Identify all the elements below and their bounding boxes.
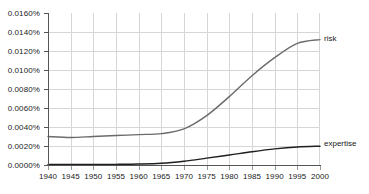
x-tick-label: 1960	[128, 172, 150, 181]
x-axis-tick	[71, 166, 72, 170]
x-tick-label: 1990	[264, 172, 286, 181]
x-axis-tick	[297, 166, 298, 170]
y-tick-label: 0.0160%	[8, 9, 40, 18]
y-tick-label: 0.0020%	[8, 142, 40, 151]
x-axis-tick	[184, 166, 185, 170]
series-label-risk: risk	[324, 34, 336, 43]
x-axis-tick	[48, 166, 49, 170]
x-axis-tick	[252, 166, 253, 170]
x-axis-tick	[161, 166, 162, 170]
y-tick-label: 0.0100%	[8, 66, 40, 75]
y-axis-line	[48, 13, 49, 166]
y-tick-label: 0.0060%	[8, 104, 40, 113]
x-axis-tick	[207, 166, 208, 170]
x-axis-tick	[93, 166, 94, 170]
x-tick-label: 1950	[82, 172, 104, 181]
y-tick-label: 0.0000%	[8, 161, 40, 170]
x-axis-tick	[229, 166, 230, 170]
y-tick-label: 0.0080%	[8, 85, 40, 94]
x-axis-tick	[139, 166, 140, 170]
series-line-risk	[48, 40, 320, 138]
x-tick-label: 1975	[196, 172, 218, 181]
x-tick-label: 1970	[173, 172, 195, 181]
x-axis-tick	[275, 166, 276, 170]
x-tick-label: 1965	[150, 172, 172, 181]
x-axis-tick	[116, 166, 117, 170]
x-tick-label: 2000	[309, 172, 331, 181]
y-tick-label: 0.0140%	[8, 28, 40, 37]
x-tick-label: 1995	[286, 172, 308, 181]
series-line-expertise	[48, 146, 320, 164]
x-tick-label: 1945	[60, 172, 82, 181]
line-chart: 0.0160% 0.0140% 0.0120% 0.0100% 0.0080% …	[0, 0, 369, 194]
y-tick-label: 0.0040%	[8, 123, 40, 132]
x-axis-tick	[320, 166, 321, 170]
x-tick-label: 1985	[241, 172, 263, 181]
x-tick-label: 1980	[218, 172, 240, 181]
x-tick-label: 1940	[37, 172, 59, 181]
series-lines	[48, 13, 320, 165]
y-tick-label: 0.0120%	[8, 47, 40, 56]
series-label-expertise: expertise	[324, 139, 356, 148]
plot-area	[48, 13, 320, 165]
x-tick-label: 1955	[105, 172, 127, 181]
